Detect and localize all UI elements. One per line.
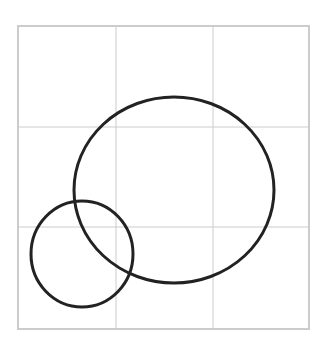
shapes xyxy=(31,97,274,307)
large-ellipse xyxy=(74,97,274,283)
diagram-canvas xyxy=(0,0,328,347)
small-circle xyxy=(31,201,133,307)
